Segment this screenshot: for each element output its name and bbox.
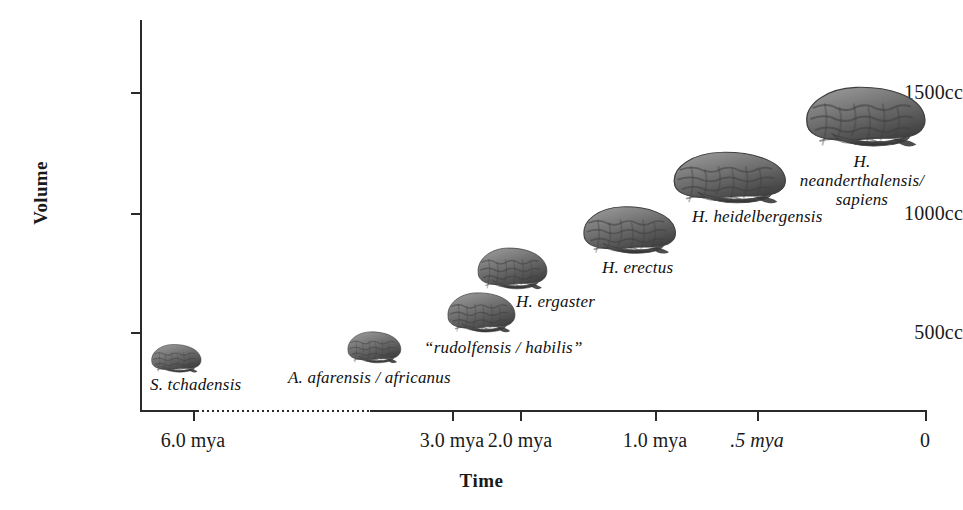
y-tick-label-500: 500cc — [839, 322, 963, 342]
y-tick-mark-500 — [131, 332, 142, 334]
x-axis-line-left-segment — [140, 410, 197, 412]
brain-icon-a-afarensis-africanus — [344, 328, 404, 366]
x-tick-label-0: 0 — [920, 429, 930, 451]
x-axis-title: Time — [0, 470, 963, 492]
y-tick-mark-1000 — [131, 213, 142, 215]
y-axis-title: Volume — [30, 148, 52, 238]
brain-icon-h-neanderthalensis-sapiens — [798, 80, 932, 152]
species-label-h-erectus: H. erectus — [602, 258, 673, 277]
x-tick-mark-6-0-mya — [193, 410, 195, 421]
x-tick-label-0-5-mya: .5 mya — [730, 429, 783, 451]
brain-icon-rudolfensis-habilis — [443, 288, 519, 336]
brain-icon-h-erectus — [577, 201, 681, 258]
x-tick-label-1-0-mya: 1.0 mya — [623, 429, 687, 451]
brain-icon-h-ergaster — [473, 243, 551, 293]
brain-evolution-chart: 1500cc 1000cc 500cc Volume 6.0 mya 3.0 m… — [0, 0, 963, 510]
x-tick-mark-1-0-mya — [655, 410, 657, 421]
x-axis-break-dotted-segment — [197, 410, 370, 412]
brain-icon-s-tchadensis — [148, 341, 204, 375]
brain-icon-h-heidelbergensis — [666, 146, 792, 208]
species-label-a-afarensis-africanus: A. afarensis / africanus — [288, 368, 451, 387]
x-tick-label-6-0-mya: 6.0 mya — [161, 429, 225, 451]
y-tick-mark-1500 — [131, 92, 142, 94]
x-tick-mark-0 — [925, 410, 927, 421]
x-tick-mark-3-0-mya — [452, 410, 454, 421]
x-tick-mark-0-5-mya — [757, 410, 759, 421]
species-label-s-tchadensis: S. tchadensis — [150, 375, 241, 394]
species-label-h-heidelbergensis: H. heidelbergensis — [692, 207, 822, 226]
species-label-h-ergaster: H. ergaster — [516, 292, 595, 311]
species-label-rudolfensis-habilis: “rudolfensis / habilis” — [424, 338, 583, 357]
x-tick-label-2-0-mya: 2.0 mya — [488, 429, 552, 451]
x-tick-label-3-0-mya: 3.0 mya — [420, 429, 484, 451]
species-label-h-neanderthalensis-sapiens: H. neanderthalensis/ sapiens — [800, 152, 924, 209]
x-tick-mark-2-0-mya — [520, 410, 522, 421]
y-axis-line — [140, 20, 142, 412]
